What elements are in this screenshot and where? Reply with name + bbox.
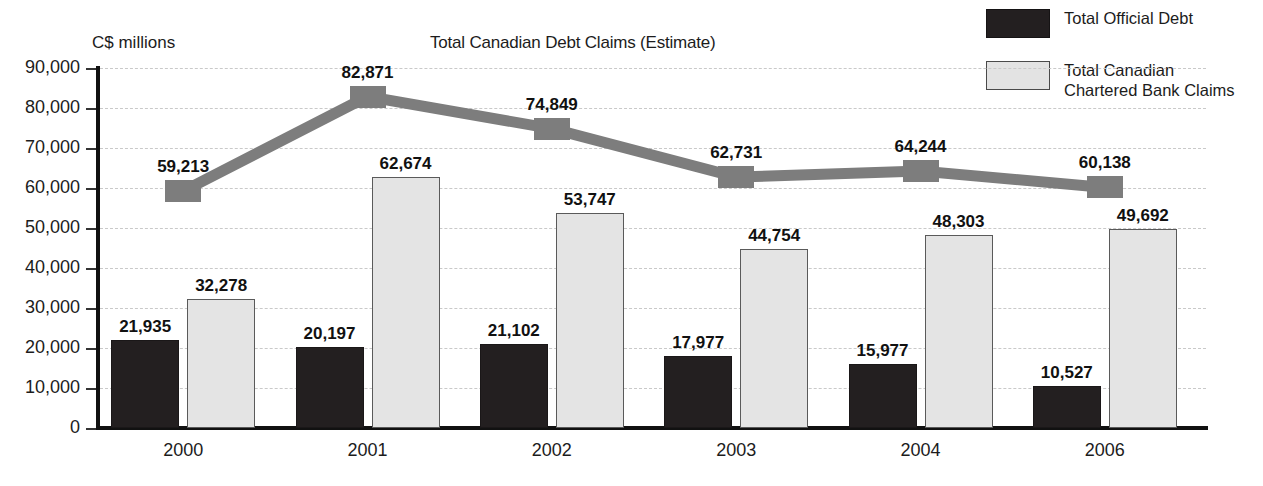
line-value-label: 62,731 [710, 143, 762, 163]
x-axis-tick-label: 2003 [716, 440, 756, 461]
bar [925, 235, 993, 428]
x-axis-tick-label: 2001 [347, 440, 387, 461]
y-axis-tick-label: 70,000 [0, 137, 80, 158]
line-value-label: 64,244 [895, 137, 947, 157]
gridline [100, 108, 1206, 109]
bar-value-label: 53,747 [564, 190, 616, 210]
gridline [100, 228, 1206, 229]
y-axis-tick-label: 80,000 [0, 97, 80, 118]
line-marker [718, 166, 754, 188]
bar-value-label: 21,102 [488, 321, 540, 341]
bar [480, 344, 548, 428]
bar [740, 249, 808, 428]
bar [1109, 229, 1177, 428]
bar-value-label: 17,977 [672, 333, 724, 353]
y-axis-tick-label: 20,000 [0, 337, 80, 358]
chart-legend: Total Official Debt Total Canadian Chart… [986, 8, 1261, 122]
bar [1033, 386, 1101, 428]
gridline [100, 308, 1206, 309]
x-axis-tick-label: 2002 [532, 440, 572, 461]
bar [187, 299, 255, 428]
line-value-label: 60,138 [1079, 153, 1131, 173]
legend-item-chartered-bank-claims: Total Canadian Chartered Bank Claims [986, 60, 1261, 100]
y-axis-tick-label: 40,000 [0, 257, 80, 278]
y-axis-tick-label: 90,000 [0, 57, 80, 78]
y-axis-tick-label: 50,000 [0, 217, 80, 238]
y-axis-unit-label: C$ millions [92, 33, 175, 53]
x-axis-tick-label: 2000 [163, 440, 203, 461]
legend-item-label: Total Canadian Chartered Bank Claims [1064, 60, 1235, 100]
y-axis-tick-label: 30,000 [0, 297, 80, 318]
y-axis-tick-label: 60,000 [0, 177, 80, 198]
bar [664, 356, 732, 428]
bar [556, 213, 624, 428]
gridline [100, 68, 1206, 69]
line-value-label: 82,871 [342, 63, 394, 83]
bar-value-label: 21,935 [119, 317, 171, 337]
bar [296, 347, 364, 428]
bar [111, 340, 179, 428]
line-marker [165, 180, 201, 202]
bar-value-label: 44,754 [748, 226, 800, 246]
gridline [100, 268, 1206, 269]
gridline [100, 348, 1206, 349]
bar-value-label: 20,197 [304, 324, 356, 344]
gridline [100, 188, 1206, 189]
line-marker [350, 86, 386, 108]
y-axis-tick-label: 10,000 [0, 377, 80, 398]
bar-value-label: 15,977 [857, 341, 909, 361]
line-marker [534, 118, 570, 140]
gridline [100, 148, 1206, 149]
legend-item-label: Total Official Debt [1064, 8, 1193, 28]
line-marker [903, 160, 939, 182]
chart-canvas: Total Canadian Debt Claims (Estimate) C$… [0, 0, 1263, 486]
dark-square-icon [986, 9, 1050, 38]
bar-value-label: 48,303 [933, 212, 985, 232]
bar-value-label: 62,674 [380, 154, 432, 174]
y-axis-line [96, 66, 100, 430]
chart-title: Total Canadian Debt Claims (Estimate) [430, 33, 716, 53]
line-value-label: 59,213 [157, 157, 209, 177]
bar-value-label: 10,527 [1041, 363, 1093, 383]
light-square-icon [986, 61, 1050, 90]
x-axis-tick-label: 2006 [1085, 440, 1125, 461]
bar [372, 177, 440, 428]
bar-value-label: 32,278 [195, 276, 247, 296]
bar-value-label: 49,692 [1117, 206, 1169, 226]
line-marker [1087, 176, 1123, 198]
y-axis-tick-label: 0 [0, 417, 80, 438]
line-value-label: 74,849 [526, 95, 578, 115]
x-axis-tick-label: 2004 [900, 440, 940, 461]
bar [849, 364, 917, 428]
legend-item-total-official-debt: Total Official Debt [986, 8, 1261, 38]
